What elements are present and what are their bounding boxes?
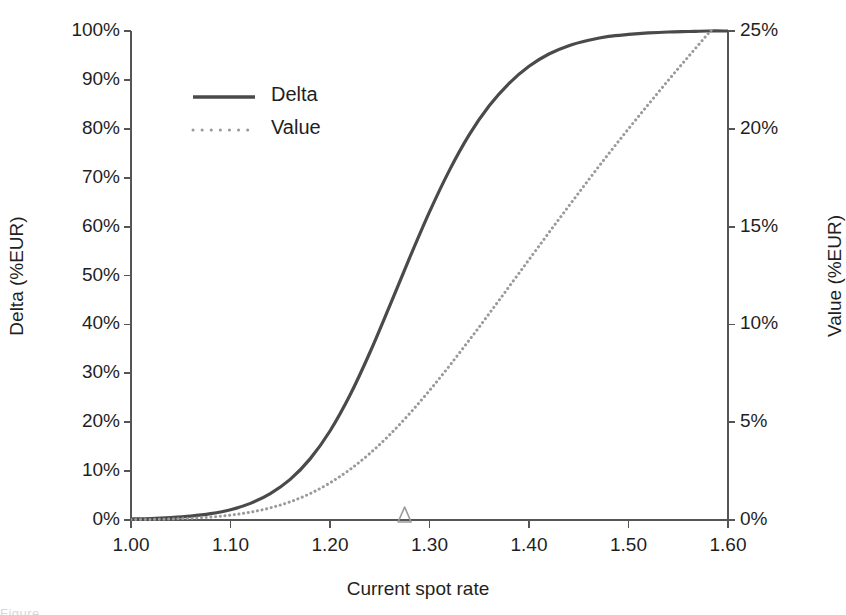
legend-entry-delta-label: Delta (271, 83, 318, 106)
y-axis-right-tick-label: 0% (740, 508, 820, 530)
y-axis-right-tick-label: 5% (740, 410, 820, 432)
y-axis-left-title: Delta (%EUR) (6, 216, 28, 335)
y-axis-right-title: Value (%EUR) (824, 214, 846, 336)
y-axis-left-tick-label: 60% (30, 215, 120, 237)
y-axis-left-tick-label: 40% (30, 312, 120, 334)
y-axis-left-tick-label: 80% (30, 117, 120, 139)
legend-entry-value-label: Value (271, 116, 321, 139)
y-axis-left-tick-label: 70% (30, 166, 120, 188)
y-axis-left-tick-label: 0% (30, 508, 120, 530)
y-axis-left-tick-label: 50% (30, 264, 120, 286)
x-axis-tick-label: 1.10 (186, 534, 276, 556)
legend-layer (193, 97, 255, 130)
caption-fragment: Figure (0, 606, 300, 615)
y-axis-left-tick-label: 90% (30, 68, 120, 90)
y-axis-left-tick-label: 100% (30, 19, 120, 41)
x-axis-tick-label: 1.30 (385, 534, 475, 556)
x-axis-tick-label: 1.60 (683, 534, 773, 556)
x-axis-tick-label: 1.50 (584, 534, 674, 556)
x-axis-tick-label: 1.00 (86, 534, 176, 556)
x-axis-tick-label: 1.40 (484, 534, 574, 556)
series-layer (131, 11, 728, 519)
y-axis-right-tick-label: 15% (740, 215, 820, 237)
series-line-value (131, 11, 728, 519)
x-axis-title: Current spot rate (0, 578, 836, 600)
y-axis-right-tick-label: 10% (740, 312, 820, 334)
y-axis-left-tick-label: 10% (30, 459, 120, 481)
axes-layer (124, 31, 735, 528)
y-axis-left-tick-label: 20% (30, 410, 120, 432)
y-axis-left-tick-label: 30% (30, 361, 120, 383)
x-axis-tick-label: 1.20 (285, 534, 375, 556)
y-axis-right-tick-label: 25% (740, 19, 820, 41)
series-line-delta (131, 31, 728, 519)
y-axis-right-tick-label: 20% (740, 117, 820, 139)
